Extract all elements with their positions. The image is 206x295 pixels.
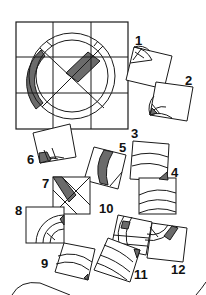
piece-label-3: 3 <box>131 127 138 140</box>
piece-label-11: 11 <box>134 268 148 281</box>
piece-label-7: 7 <box>42 177 49 190</box>
piece-1[interactable] <box>126 46 172 89</box>
piece-label-2: 2 <box>185 74 192 87</box>
piece-label-5: 5 <box>119 141 126 154</box>
piece-label-4: 4 <box>171 166 178 179</box>
puzzle-canvas <box>0 0 206 295</box>
bottom-curve <box>12 283 70 295</box>
bottom-curve-right <box>196 282 206 295</box>
piece-8[interactable] <box>26 207 64 243</box>
piece-label-10: 10 <box>99 202 113 215</box>
piece-9[interactable] <box>55 243 95 280</box>
piece-label-6: 6 <box>27 153 34 166</box>
piece-12[interactable] <box>145 223 187 262</box>
main-grid <box>16 22 128 129</box>
piece-label-1: 1 <box>135 34 142 47</box>
piece-6[interactable] <box>33 124 76 163</box>
piece-label-9: 9 <box>41 257 48 270</box>
piece-label-8: 8 <box>15 204 22 217</box>
piece-label-12: 12 <box>171 263 185 276</box>
